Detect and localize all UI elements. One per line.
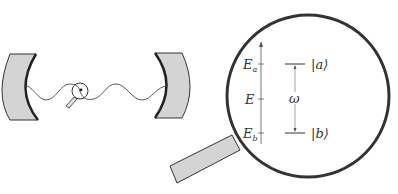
cavity-wave xyxy=(24,84,168,100)
cavity-diagram: Ea E Eb ω |a⟩ |b⟩ xyxy=(0,0,398,194)
label-state-b: |b⟩ xyxy=(311,126,329,141)
label-state-a: |a⟩ xyxy=(311,57,328,72)
magnifier-handle xyxy=(170,135,240,183)
atom-magnifier-handle xyxy=(66,97,77,108)
atom-dot xyxy=(80,89,83,92)
label-E: E xyxy=(244,92,255,107)
label-omega: ω xyxy=(289,91,300,106)
